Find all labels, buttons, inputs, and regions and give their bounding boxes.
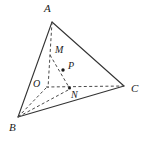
label-vertex-b: B <box>9 122 16 133</box>
label-vertex-a: A <box>44 3 51 14</box>
edge-ab-line <box>18 22 52 117</box>
geometry-figure: A B C O M P N <box>0 0 145 141</box>
label-point-o: O <box>33 79 40 89</box>
point-p-marker <box>61 68 64 71</box>
label-point-p: P <box>68 61 74 71</box>
edge-bn-line <box>18 89 70 117</box>
label-vertex-c: C <box>131 83 138 94</box>
edge-oc-line <box>46 86 124 87</box>
edge-mn-line <box>50 55 70 89</box>
label-point-m: M <box>55 45 63 55</box>
label-point-n: N <box>71 90 78 100</box>
